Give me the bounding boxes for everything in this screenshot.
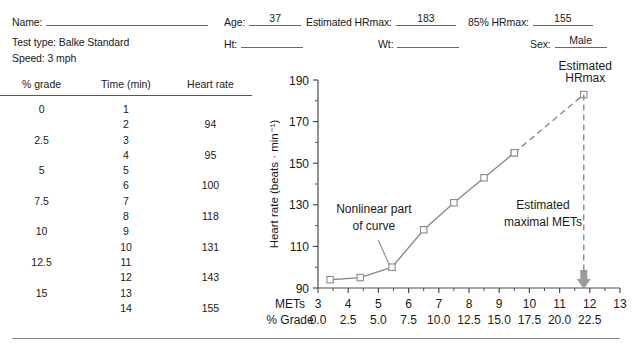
sex-value: Male [555, 34, 607, 46]
table-row: 12143 [0, 270, 252, 285]
age-value: 37 [249, 12, 301, 24]
cell-time: 5 [83, 163, 169, 178]
x-tick-label-grade: 2.5 [340, 313, 357, 327]
data-point-marker [357, 274, 363, 280]
x-tick-label-mets: 13 [613, 297, 627, 311]
estimated-hrmax-value: 183 [396, 12, 456, 24]
cell-heart-rate: 118 [169, 209, 252, 224]
x-tick-label-mets: 5 [375, 297, 382, 311]
series-line-0 [330, 153, 514, 280]
cell-heart-rate [169, 163, 252, 178]
data-point-marker [451, 200, 457, 206]
data-point-marker [389, 264, 395, 270]
x-tick-label-mets: 12 [583, 297, 597, 311]
chart-svg: 90110130150170190Heart rate (beats · min… [262, 58, 632, 330]
field-age[interactable]: Age: 37 [224, 14, 301, 28]
y-tick-label: 130 [289, 198, 309, 212]
cell-grade [0, 270, 83, 285]
x-tick-label-grade: 15.0 [488, 313, 512, 327]
table-header-row: % grade Time (min) Heart rate [0, 78, 252, 96]
cell-heart-rate [169, 194, 252, 209]
85-percent-hrmax-label: 85% HRmax: [468, 16, 529, 28]
cell-heart-rate: 155 [169, 301, 252, 316]
column-header-heart-rate: Heart rate [169, 78, 252, 96]
test-type-line: Test type: Balke Standard [12, 36, 129, 48]
table-row: 01 [0, 96, 252, 118]
estimated-hrmax-input[interactable]: 183 [396, 14, 456, 26]
annotation-hrmax-line2: HRmax [565, 71, 605, 85]
table-row: 10131 [0, 240, 252, 255]
cell-grade [0, 240, 83, 255]
height-label: Ht: [224, 38, 237, 50]
cell-time: 9 [83, 224, 169, 239]
y-tick-label: 170 [289, 115, 309, 129]
field-85-percent-hrmax[interactable]: 85% HRmax: 155 [468, 14, 593, 28]
cell-heart-rate [169, 133, 252, 148]
cell-heart-rate [169, 255, 252, 270]
data-point-marker [327, 276, 333, 282]
field-sex[interactable]: Sex: Male [530, 36, 607, 50]
table-row: 7.57 [0, 194, 252, 209]
series-line-1 [514, 95, 583, 153]
field-name[interactable]: Name: [12, 14, 208, 28]
field-height[interactable]: Ht: [224, 36, 303, 50]
cell-heart-rate [169, 224, 252, 239]
x-tick-label-mets: 6 [405, 297, 412, 311]
85-percent-hrmax-input[interactable]: 155 [533, 14, 593, 26]
cell-grade [0, 209, 83, 224]
field-weight[interactable]: Wt: [378, 36, 459, 50]
cell-grade: 5 [0, 163, 83, 178]
table-row: 6100 [0, 178, 252, 193]
y-axis-title: Heart rate (beats · min⁻¹) [268, 119, 280, 248]
weight-input[interactable] [397, 36, 459, 48]
annotation-nonlinear-line1: Nonlinear part [336, 202, 412, 216]
x-tick-label-mets: 8 [466, 297, 473, 311]
cell-time: 11 [83, 255, 169, 270]
cell-time: 1 [83, 96, 169, 118]
name-input[interactable] [46, 14, 208, 26]
estimated-hrmax-label: Estimated HRmax: [306, 16, 392, 28]
field-estimated-hrmax[interactable]: Estimated HRmax: 183 [306, 14, 456, 28]
table-row: 14155 [0, 301, 252, 316]
cell-time: 8 [83, 209, 169, 224]
cell-grade [0, 301, 83, 316]
table-row: 55 [0, 163, 252, 178]
age-input[interactable]: 37 [249, 14, 301, 26]
annotation-max-mets-line2: maximal METs [504, 215, 582, 229]
table-row: 8118 [0, 209, 252, 224]
patient-info-form: Name: Age: 37 Estimated HRmax: 183 85% H… [0, 0, 632, 62]
cell-time: 12 [83, 270, 169, 285]
cell-grade: 0 [0, 96, 83, 118]
annotation-nonlinear-line2: of curve [353, 219, 396, 233]
cell-time: 4 [83, 148, 169, 163]
y-tick-label: 190 [289, 74, 309, 88]
column-header-time: Time (min) [83, 78, 169, 96]
table-head: % grade Time (min) Heart rate [0, 78, 252, 96]
data-point-marker [421, 227, 427, 233]
figure-bottom-rule [12, 338, 620, 339]
85-percent-hrmax-value: 155 [533, 12, 593, 24]
y-tick-label: 110 [290, 240, 309, 254]
column-header-grade: % grade [0, 78, 83, 96]
dropline-arrow-shaft [580, 270, 587, 280]
x-tick-label-grade: 0.0 [310, 313, 327, 327]
heart-rate-vs-mets-chart: 90110130150170190Heart rate (beats · min… [262, 58, 632, 330]
table-row: 12.511 [0, 255, 252, 270]
x-tick-label-mets: 3 [315, 297, 322, 311]
x-axis-label-mets: METs [275, 297, 305, 311]
cell-time: 2 [83, 117, 169, 132]
sex-input[interactable]: Male [555, 36, 607, 48]
x-tick-label-grade: 5.0 [370, 313, 387, 327]
x-tick-label-mets: 9 [496, 297, 503, 311]
cell-grade [0, 117, 83, 132]
weight-label: Wt: [378, 38, 393, 50]
cell-grade: 15 [0, 286, 83, 301]
cell-heart-rate: 143 [169, 270, 252, 285]
cell-grade: 10 [0, 224, 83, 239]
age-label: Age: [224, 16, 245, 28]
height-input[interactable] [241, 36, 303, 48]
cell-grade: 12.5 [0, 255, 83, 270]
cell-time: 13 [83, 286, 169, 301]
cell-grade [0, 178, 83, 193]
y-tick-label: 150 [289, 157, 309, 171]
